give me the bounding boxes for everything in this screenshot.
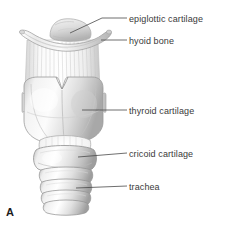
label-trachea: trachea xyxy=(129,182,160,192)
larynx-figure: epiglottic cartilage hyoid bone thyroid … xyxy=(0,0,230,227)
label-epiglottic-cartilage: epiglottic cartilage xyxy=(129,14,203,24)
larynx-illustration xyxy=(0,0,230,227)
trachea-rings xyxy=(39,167,92,215)
epiglottic-cartilage xyxy=(50,19,91,42)
panel-letter: A xyxy=(6,206,14,218)
label-cricoid-cartilage: cricoid cartilage xyxy=(129,149,193,159)
label-hyoid-bone: hyoid bone xyxy=(129,36,174,46)
label-thyroid-cartilage: thyroid cartilage xyxy=(129,106,194,116)
